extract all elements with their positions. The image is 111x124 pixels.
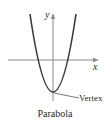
diagram-caption: Parabola — [38, 108, 74, 119]
y-axis — [51, 13, 55, 101]
vertex-leader-line — [54, 93, 79, 98]
y-axis-label: y — [44, 9, 50, 20]
parabola-diagram: y x Vertex Parabola — [0, 0, 111, 124]
parabola-figure: y x Vertex Parabola — [0, 0, 111, 124]
vertex-label: Vertex — [79, 93, 103, 103]
x-axis-label: x — [92, 61, 98, 72]
y-axis-arrow-icon — [51, 13, 55, 19]
